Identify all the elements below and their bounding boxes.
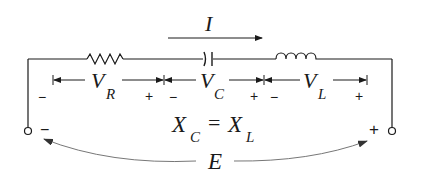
equals-sign: =: [208, 112, 220, 134]
reactance-xl-label: X: [228, 113, 242, 136]
current-label: I: [205, 13, 212, 35]
resistor-neg-sign: −: [38, 90, 46, 104]
resistor-voltage-subscript: R: [106, 87, 115, 102]
reactance-xl-subscript: L: [246, 130, 254, 145]
resistor-symbol: [87, 54, 123, 64]
positive-terminal: [389, 128, 396, 135]
capacitor-voltage-label: V: [200, 70, 213, 92]
resistor-pos-sign: +: [145, 89, 153, 103]
inductor-voltage-subscript: L: [318, 87, 326, 102]
source-pos-sign: +: [369, 121, 379, 138]
source-neg-sign: −: [40, 122, 49, 138]
capacitor-symbol: [204, 52, 212, 66]
inductor-symbol: [276, 53, 318, 59]
reactance-xc-label: X: [172, 113, 186, 136]
inductor-pos-sign: +: [355, 89, 363, 103]
source-voltage-label: E: [208, 150, 222, 173]
source-arc-left: [44, 139, 196, 162]
reactance-xc-subscript: C: [190, 130, 200, 145]
capacitor-neg-sign: −: [169, 90, 177, 104]
capacitor-pos-sign: +: [250, 89, 258, 103]
inductor-neg-sign: −: [270, 90, 278, 104]
resistor-voltage-label: V: [91, 70, 104, 92]
inductor-voltage-label: V: [303, 70, 316, 92]
negative-terminal: [25, 128, 32, 135]
capacitor-voltage-subscript: C: [214, 87, 224, 102]
